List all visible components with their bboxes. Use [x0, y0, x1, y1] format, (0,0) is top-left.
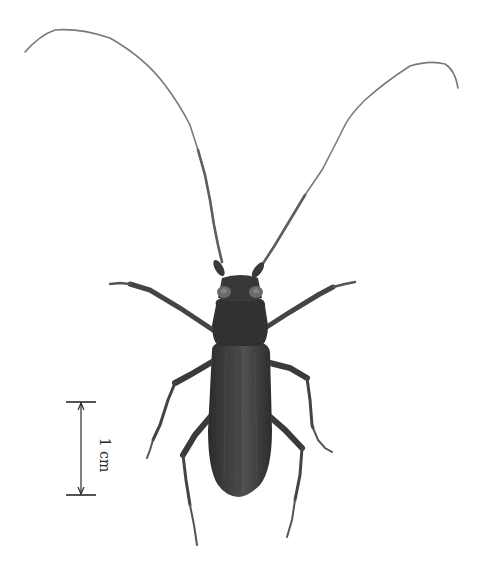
- scale-bar: [66, 402, 96, 495]
- left-antenna: [25, 30, 227, 278]
- figure-canvas: 1 cm: [0, 0, 489, 581]
- right-antenna: [250, 62, 458, 279]
- beetle-illustration: [0, 0, 489, 581]
- middle-left-leg: [147, 362, 212, 458]
- hind-right-leg: [268, 415, 302, 537]
- front-right-leg: [262, 282, 355, 330]
- head: [217, 275, 263, 301]
- front-left-leg: [110, 283, 213, 330]
- elytra: [208, 343, 272, 497]
- pronotum: [212, 298, 268, 346]
- middle-right-leg: [266, 362, 332, 452]
- hind-left-leg: [183, 415, 212, 545]
- scale-bar-label: 1 cm: [97, 435, 113, 475]
